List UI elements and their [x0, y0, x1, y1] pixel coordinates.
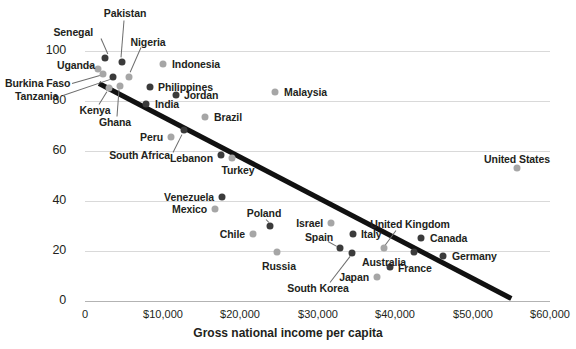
y-tick-label-20: 20: [26, 243, 66, 257]
data-point-burkina-faso[interactable]: [100, 71, 107, 78]
data-point-senegal[interactable]: [102, 55, 109, 62]
data-point-south-korea[interactable]: [349, 250, 356, 257]
data-point-nigeria[interactable]: [126, 74, 133, 81]
x-tick-label-4: $40,000: [375, 308, 415, 320]
data-point-lebanon[interactable]: [218, 152, 225, 159]
y-tick-label-100: 100: [26, 43, 66, 57]
point-label-south-africa: South Africa: [109, 150, 170, 161]
point-label-burkina-faso: Burkina Faso: [5, 78, 70, 89]
point-label-uganda: Uganda: [57, 60, 95, 71]
point-label-chile: Chile: [220, 229, 245, 240]
point-label-france: France: [398, 263, 432, 274]
point-label-italy: Italy: [361, 229, 382, 240]
point-label-united-states: United States: [484, 154, 550, 165]
gridline-y-40: [85, 201, 550, 202]
data-point-indonesia[interactable]: [160, 61, 167, 68]
point-label-united-kingdom: United Kingdom: [370, 219, 450, 230]
data-point-brazil[interactable]: [202, 114, 209, 121]
x-tick-label-1: $10,000: [143, 308, 183, 320]
point-label-senegal: Senegal: [53, 27, 93, 38]
point-label-israel: Israel: [296, 218, 323, 229]
data-point-japan[interactable]: [374, 274, 381, 281]
point-label-jordan: Jordan: [184, 90, 218, 101]
data-point-chile[interactable]: [250, 231, 257, 238]
point-label-nigeria: Nigeria: [131, 37, 166, 48]
x-tick-label-2: $20,000: [220, 308, 260, 320]
x-tick-label-6: $60,000: [530, 308, 570, 320]
data-point-poland[interactable]: [267, 223, 274, 230]
data-point-venezuela[interactable]: [219, 194, 226, 201]
data-point-united-kingdom[interactable]: [381, 245, 388, 252]
x-axis-title: Gross national income per capita: [0, 326, 576, 340]
x-tick-label-0: 0: [82, 308, 88, 320]
data-point-united-states[interactable]: [514, 165, 521, 172]
leader-line-senegal: [101, 38, 109, 54]
data-point-spain[interactable]: [337, 245, 344, 252]
data-point-tanzania[interactable]: [110, 74, 117, 81]
y-tick-label-60: 60: [26, 143, 66, 157]
leader-line-kenya: [99, 91, 108, 105]
point-label-malaysia: Malaysia: [284, 87, 327, 98]
point-label-venezuela: Venezuela: [164, 192, 214, 203]
x-axis-line: [85, 301, 550, 302]
point-label-spain: Spain: [305, 232, 333, 243]
point-label-russia: Russia: [262, 261, 296, 272]
x-tick-label-5: $50,000: [453, 308, 493, 320]
point-label-turkey: Turkey: [221, 165, 254, 176]
data-point-ghana[interactable]: [117, 83, 124, 90]
point-label-poland: Poland: [247, 208, 281, 219]
data-point-south-africa[interactable]: [181, 127, 188, 134]
point-label-germany: Germany: [452, 251, 497, 262]
point-label-peru: Peru: [140, 132, 163, 143]
point-label-canada: Canada: [430, 233, 467, 244]
point-label-tanzania: Tanzania: [15, 91, 58, 102]
trend-line: [98, 81, 513, 300]
data-point-russia[interactable]: [274, 249, 281, 256]
data-point-italy[interactable]: [350, 231, 357, 238]
point-label-mexico: Mexico: [172, 204, 207, 215]
data-point-australia[interactable]: [411, 249, 418, 256]
point-label-kenya: Kenya: [79, 105, 110, 116]
data-point-turkey[interactable]: [229, 155, 236, 162]
data-point-canada[interactable]: [418, 235, 425, 242]
point-label-indonesia: Indonesia: [172, 59, 220, 70]
point-label-ghana: Ghana: [99, 117, 131, 128]
point-label-lebanon: Lebanon: [170, 153, 213, 164]
gridline-y-100: [85, 51, 550, 52]
point-label-brazil: Brazil: [214, 112, 242, 123]
data-point-peru[interactable]: [168, 134, 175, 141]
y-tick-label-40: 40: [26, 193, 66, 207]
x-tick-label-3: $30,000: [298, 308, 338, 320]
data-point-germany[interactable]: [440, 253, 447, 260]
data-point-israel[interactable]: [328, 220, 335, 227]
point-label-pakistan: Pakistan: [104, 8, 146, 19]
data-point-pakistan[interactable]: [119, 59, 126, 66]
data-point-india[interactable]: [143, 101, 150, 108]
y-tick-label-0: 0: [26, 293, 66, 307]
point-label-south-korea: South Korea: [287, 283, 348, 294]
point-label-japan: Japan: [339, 272, 369, 283]
data-point-mexico[interactable]: [212, 206, 219, 213]
data-point-kenya[interactable]: [106, 85, 113, 92]
data-point-malaysia[interactable]: [272, 89, 279, 96]
point-label-india: India: [155, 99, 179, 110]
data-point-philippines[interactable]: [147, 84, 154, 91]
scatter-chart: 0204060801000$10,000$20,000$30,000$40,00…: [0, 0, 576, 349]
